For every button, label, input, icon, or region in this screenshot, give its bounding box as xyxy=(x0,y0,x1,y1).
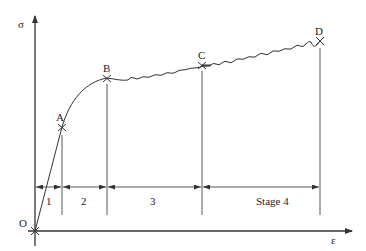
point-c-label: C xyxy=(198,49,205,61)
origin-label: O xyxy=(19,217,27,229)
curve-elastic-segment xyxy=(35,127,62,231)
stage-2-label: 2 xyxy=(81,195,87,207)
curve-serrated-plateau xyxy=(107,65,211,80)
point-d-marker xyxy=(316,37,324,45)
stage-3-label: 3 xyxy=(150,195,156,207)
point-d-label: D xyxy=(315,25,323,37)
y-axis-label: σ xyxy=(18,18,24,30)
point-a-marker xyxy=(58,124,66,131)
curve-hardening-segment xyxy=(62,78,107,127)
x-axis-label: ε xyxy=(331,234,336,246)
point-b-label: B xyxy=(103,62,110,74)
stress-strain-diagram: σ ε O A B C D 1 2 3 Stage 4 xyxy=(0,0,366,251)
stage-4-label: Stage 4 xyxy=(256,195,289,207)
stage-1-label: 1 xyxy=(46,195,52,207)
point-a-label: A xyxy=(56,111,64,123)
curve-serrated-rise xyxy=(202,41,320,66)
